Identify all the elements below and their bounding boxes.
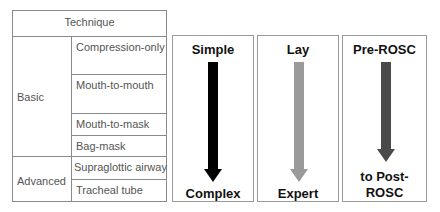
panel-top-label: Lay bbox=[258, 42, 338, 57]
technique-item: Bag-mask bbox=[76, 140, 126, 152]
divider bbox=[72, 74, 166, 75]
panel-bottom-label-line1: to Post- bbox=[343, 169, 426, 184]
group-label-advanced: Advanced bbox=[17, 175, 66, 187]
panel-lay-expert: Lay Expert bbox=[257, 35, 339, 202]
group-label-basic: Basic bbox=[17, 91, 44, 103]
technique-item: Mouth-to-mask bbox=[76, 118, 149, 130]
arrow-head-icon bbox=[290, 169, 308, 182]
panel-bottom-label-line2: ROSC bbox=[343, 185, 426, 200]
technique-table: Technique Basic Advanced Compression-onl… bbox=[12, 10, 167, 202]
arrow-down-icon bbox=[208, 62, 218, 170]
arrow-head-icon bbox=[204, 169, 222, 182]
divider bbox=[13, 36, 166, 37]
technique-item: Mouth-to-mouth bbox=[76, 79, 154, 91]
panel-top-label: Pre-ROSC bbox=[343, 42, 426, 57]
panel-bottom-label: Expert bbox=[258, 186, 338, 201]
divider bbox=[72, 135, 166, 136]
technique-item: Compression-only bbox=[76, 41, 165, 53]
divider bbox=[13, 156, 166, 157]
divider bbox=[72, 179, 166, 180]
divider bbox=[72, 113, 166, 114]
arrow-head-icon bbox=[377, 149, 395, 162]
arrow-down-icon bbox=[294, 62, 304, 170]
table-header: Technique bbox=[13, 16, 166, 28]
divider bbox=[71, 37, 72, 201]
panel-simple-complex: Simple Complex bbox=[172, 35, 254, 202]
technique-item: Tracheal tube bbox=[76, 184, 143, 196]
technique-item: Supraglottic airway bbox=[74, 161, 167, 173]
panel-rosc: Pre-ROSC to Post- ROSC bbox=[342, 35, 427, 202]
panel-top-label: Simple bbox=[173, 42, 253, 57]
arrow-down-icon bbox=[381, 62, 391, 150]
panel-bottom-label: Complex bbox=[173, 186, 253, 201]
